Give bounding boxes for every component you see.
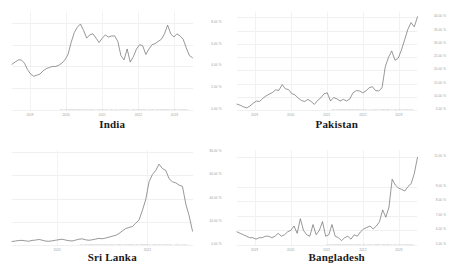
y-axis-tick-label: 8.00 % bbox=[211, 21, 221, 24]
y-axis-tick-label: 9.00 % bbox=[436, 185, 446, 188]
y-axis-tick-label: 5.00 % bbox=[436, 108, 446, 111]
y-axis-tick-label: 25.00 % bbox=[434, 55, 446, 58]
country-title-india: India bbox=[0, 118, 225, 130]
x-axis-tick-label: 2022 bbox=[135, 114, 142, 117]
country-title-bangladesh: Bangladesh bbox=[225, 251, 449, 263]
y-axis-tick-label: 20.00 % bbox=[209, 220, 221, 223]
chart-area-bangladesh: 5.00 %6.00 %7.00 %8.00 %9.00 %11.00 %201… bbox=[225, 140, 449, 245]
data-line bbox=[237, 17, 418, 108]
inflation-charts-grid: 0.00 %2.00 %4.00 %6.00 %8.00 %2019202020… bbox=[0, 0, 449, 273]
plot-pakistan: 5.00 %10.00 %15.00 %20.00 %25.00 %30.00 … bbox=[237, 12, 448, 110]
x-axis-tick-label: 2020 bbox=[62, 114, 69, 117]
x-axis-tick-label: 2023 bbox=[395, 249, 402, 252]
x-axis-tick-label: 2020 bbox=[287, 249, 294, 252]
series-line-india bbox=[12, 12, 193, 110]
x-axis-tick-label: 2019 bbox=[251, 114, 258, 117]
series-line-bangladesh bbox=[237, 150, 418, 245]
y-axis-tick-label: 35.00 % bbox=[434, 29, 446, 32]
data-line bbox=[12, 24, 193, 76]
plot-inner-pakistan: 5.00 %10.00 %15.00 %20.00 %25.00 %30.00 … bbox=[237, 12, 418, 110]
x-axis-tick-label: 2023 bbox=[395, 114, 402, 117]
y-axis-tick-label: 7.00 % bbox=[436, 214, 446, 217]
x-axis-tick-label: 2021 bbox=[323, 249, 330, 252]
chart-panel-sri-lanka: 0.00 %20.00 %40.00 %60.00 %80.00 %202020… bbox=[0, 140, 225, 273]
plot-inner-sri-lanka: 0.00 %20.00 %40.00 %60.00 %80.00 %202020… bbox=[12, 150, 193, 245]
x-axis-tick-label: 2019 bbox=[251, 249, 258, 252]
chart-area-pakistan: 5.00 %10.00 %15.00 %20.00 %25.00 %30.00 … bbox=[225, 0, 449, 110]
y-axis-tick-label: 30.00 % bbox=[434, 42, 446, 45]
y-axis-tick-label: 5.00 % bbox=[436, 243, 446, 246]
data-line bbox=[12, 164, 193, 241]
y-axis-tick-label: 6.00 % bbox=[436, 229, 446, 232]
series-line-sri-lanka bbox=[12, 150, 193, 245]
y-axis-tick-label: 80.00 % bbox=[209, 151, 221, 154]
country-title-sri-lanka: Sri Lanka bbox=[0, 251, 225, 263]
x-axis-tick-label: 2019 bbox=[26, 114, 33, 117]
plot-bangladesh: 5.00 %6.00 %7.00 %8.00 %9.00 %11.00 %201… bbox=[237, 150, 448, 245]
y-axis-tick-label: 10.00 % bbox=[434, 95, 446, 98]
y-axis-tick-label: 2.00 % bbox=[211, 87, 221, 90]
chart-area-sri-lanka: 0.00 %20.00 %40.00 %60.00 %80.00 %202020… bbox=[0, 140, 225, 245]
plot-inner-bangladesh: 5.00 %6.00 %7.00 %8.00 %9.00 %11.00 %201… bbox=[237, 150, 418, 245]
x-axis-tick-label: 2022 bbox=[359, 114, 366, 117]
y-axis-tick-label: 8.00 % bbox=[436, 200, 446, 203]
x-axis-tick-label: 2022 bbox=[359, 249, 366, 252]
x-axis-tick-label: 2020 bbox=[287, 114, 294, 117]
y-axis-tick-label: 60.00 % bbox=[209, 174, 221, 177]
series-line-pakistan bbox=[237, 12, 418, 110]
chart-panel-india: 0.00 %2.00 %4.00 %6.00 %8.00 %2019202020… bbox=[0, 0, 225, 140]
y-axis-tick-label: 20.00 % bbox=[434, 69, 446, 72]
x-axis-tick-label: 2020 bbox=[53, 249, 60, 252]
x-axis-tick-label: 2023 bbox=[171, 114, 178, 117]
country-title-pakistan: Pakistan bbox=[225, 118, 449, 130]
chart-attribution: TRADINGECONOMICS.COM | MINISTRY OF STATI… bbox=[60, 109, 189, 112]
chart-area-india: 0.00 %2.00 %4.00 %6.00 %8.00 %2019202020… bbox=[0, 0, 225, 110]
x-axis-tick-label: 2021 bbox=[323, 114, 330, 117]
y-axis-tick-label: 40.00 % bbox=[434, 16, 446, 19]
x-axis-tick-label: 2022 bbox=[144, 249, 151, 252]
plot-india: 0.00 %2.00 %4.00 %6.00 %8.00 %2019202020… bbox=[12, 12, 223, 110]
chart-attribution: TRADINGECONOMICS.COM | DEPARTMENT OF CEN… bbox=[80, 244, 189, 247]
y-axis-tick-label: 0.00 % bbox=[211, 108, 221, 111]
plot-sri-lanka: 0.00 %20.00 %40.00 %60.00 %80.00 %202020… bbox=[12, 150, 223, 245]
y-axis-tick-label: 4.00 % bbox=[211, 65, 221, 68]
y-axis-tick-label: 40.00 % bbox=[209, 197, 221, 200]
chart-panel-bangladesh: 5.00 %6.00 %7.00 %8.00 %9.00 %11.00 %201… bbox=[225, 140, 449, 273]
x-axis-tick-label: 2021 bbox=[99, 114, 106, 117]
data-line bbox=[237, 157, 418, 240]
y-axis-tick-label: 11.00 % bbox=[434, 156, 446, 159]
plot-inner-india: 0.00 %2.00 %4.00 %6.00 %8.00 %2019202020… bbox=[12, 12, 193, 110]
chart-attribution: TRADINGECONOMICS.COM | PAKISTAN BUREAU O… bbox=[332, 109, 413, 112]
y-axis-tick-label: 15.00 % bbox=[434, 82, 446, 85]
chart-panel-pakistan: 5.00 %10.00 %15.00 %20.00 %25.00 %30.00 … bbox=[225, 0, 449, 140]
y-axis-tick-label: 0.00 % bbox=[211, 243, 221, 246]
chart-attribution: TRADINGECONOMICS.COM | BANGLADESH BUREAU… bbox=[326, 244, 413, 247]
y-axis-tick-label: 6.00 % bbox=[211, 43, 221, 46]
